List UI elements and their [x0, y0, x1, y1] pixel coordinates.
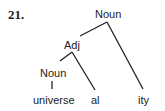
- leaf-ity: ity: [138, 94, 149, 106]
- branch-root-ity: [107, 22, 143, 89]
- branch-root-adj: [80, 22, 107, 36]
- node-adj: Adj: [64, 39, 80, 51]
- branch-adj-al: [72, 52, 95, 90]
- node-inner-noun: Noun: [40, 67, 66, 79]
- branch-adj-noun: [60, 52, 72, 61]
- node-root-noun: Noun: [95, 8, 121, 20]
- leaf-universe: universe: [33, 94, 75, 106]
- leaf-al: al: [91, 94, 100, 106]
